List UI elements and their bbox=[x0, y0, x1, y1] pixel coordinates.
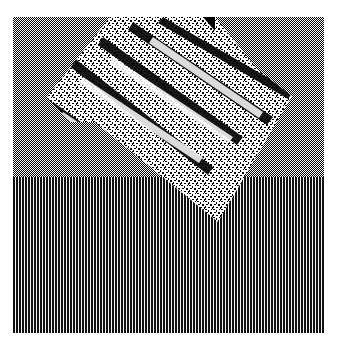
rotated-noise-square bbox=[13, 17, 324, 333]
image-frame bbox=[13, 17, 324, 333]
